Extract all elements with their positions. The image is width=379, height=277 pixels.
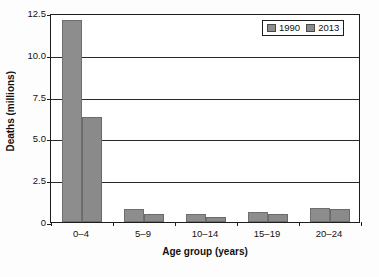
x-tick-label: 20–24 (316, 229, 342, 239)
bar-2013-5-9 (144, 214, 164, 222)
y-tick-mark (47, 57, 51, 58)
legend-label: 1990 (279, 23, 300, 33)
bar-1990-0-4 (62, 20, 82, 222)
bar-1990-10-14 (186, 214, 206, 222)
chart-figure: Deaths (millions) 02.55.07.510.012.5 0–4… (0, 0, 379, 277)
legend-entry-1990: 1990 (267, 23, 300, 33)
bar-1990-15-19 (248, 212, 268, 222)
y-tick-label: 5.0 (18, 135, 46, 145)
x-tick-mark (237, 222, 238, 226)
y-gridline (51, 99, 359, 100)
y-axis-tick-labels: 02.55.07.510.012.5 (16, 0, 46, 277)
y-tick-label: 10.0 (18, 51, 46, 61)
bar-2013-15-19 (268, 214, 288, 222)
y-tick-label: 0 (18, 218, 46, 228)
y-tick-label: 12.5 (18, 9, 46, 19)
y-tick-label: 7.5 (18, 93, 46, 103)
bar-1990-5-9 (124, 209, 144, 222)
y-axis-title-text: Deaths (millions) (5, 71, 16, 152)
y-tick-mark (47, 99, 51, 100)
bar-1990-20-24 (310, 208, 330, 222)
x-tick-mark (175, 222, 176, 226)
y-tick-mark (47, 140, 51, 141)
x-axis-title: Age group (years) (50, 246, 360, 257)
y-tick-label: 2.5 (18, 176, 46, 186)
y-tick-mark (47, 15, 51, 16)
x-tick-mark (299, 222, 300, 226)
x-tick-mark (361, 222, 362, 226)
x-tick-label: 15–19 (254, 229, 280, 239)
x-tick-mark (113, 222, 114, 226)
legend-swatch-icon (306, 24, 315, 32)
x-tick-label: 10–14 (192, 229, 218, 239)
x-tick-mark (51, 222, 52, 226)
plot-area (50, 14, 360, 223)
y-tick-mark (47, 182, 51, 183)
legend-label: 2013 (318, 23, 339, 33)
x-tick-label: 0–4 (73, 229, 89, 239)
x-tick-label: 5–9 (135, 229, 151, 239)
bar-2013-20-24 (330, 209, 350, 222)
y-gridline (51, 57, 359, 58)
legend-swatch-icon (267, 24, 276, 32)
bar-2013-0-4 (82, 117, 102, 222)
legend-entry-2013: 2013 (306, 23, 339, 33)
bar-2013-10-14 (206, 217, 226, 222)
chart-legend: 19902013 (262, 20, 344, 36)
